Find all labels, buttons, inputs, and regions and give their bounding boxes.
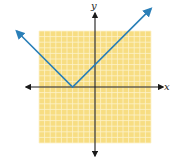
x-axis-label: x (164, 82, 170, 92)
y-axis-label: y (91, 1, 97, 11)
graph-canvas (0, 0, 176, 160)
